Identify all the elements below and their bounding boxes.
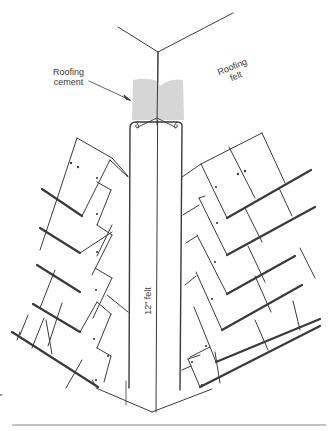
roof-corner-lines: [118, 13, 233, 412]
felt-strip: [129, 118, 182, 390]
roofing-cement-label-line2: cement: [53, 77, 84, 87]
nail-marks: [70, 162, 246, 386]
left-shingles: [12, 138, 128, 388]
cement-arrow: [89, 81, 130, 100]
roofing-cement-label-line1: Roofing: [53, 67, 84, 77]
right-shingles: [182, 133, 320, 387]
valley-flashing-diagram: [0, 0, 333, 431]
roofing-cement-label: Roofing cement: [53, 67, 84, 87]
felt-strip-label: 12" felt: [143, 287, 153, 315]
